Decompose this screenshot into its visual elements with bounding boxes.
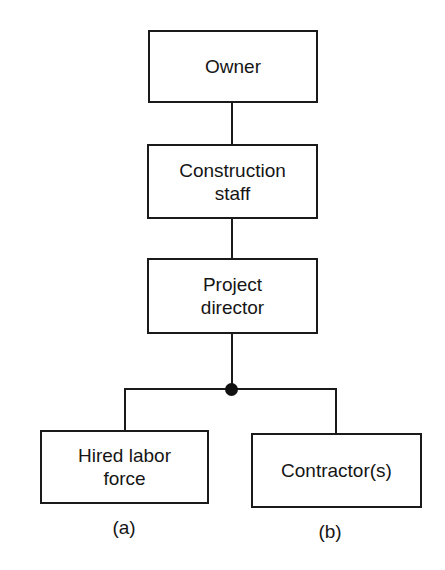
connector-owner-staff	[231, 102, 233, 144]
node-project-director: Project director	[147, 258, 318, 334]
node-construction-staff-label-line1: Construction	[179, 159, 286, 182]
connector-staff-director	[231, 218, 233, 258]
node-project-director-label-line1: Project	[201, 273, 264, 296]
node-contractors-label: Contractor(s)	[281, 459, 392, 482]
node-owner-label: Owner	[205, 55, 261, 78]
node-construction-staff-label-line2: staff	[179, 182, 286, 205]
node-hired-labor-label-line2: force	[78, 467, 171, 490]
caption-a: (a)	[104, 517, 144, 539]
caption-b: (b)	[310, 521, 350, 543]
connector-branch-left	[124, 388, 126, 431]
node-hired-labor-label-line1: Hired labor	[78, 444, 171, 467]
junction-dot	[225, 383, 238, 396]
connector-director-junction	[231, 333, 233, 389]
node-construction-staff: Construction staff	[147, 144, 318, 219]
connector-branch-right	[335, 389, 337, 434]
node-hired-labor-force: Hired labor force	[40, 430, 209, 504]
node-contractors: Contractor(s)	[251, 433, 422, 508]
node-project-director-label-line2: director	[201, 296, 264, 319]
node-owner: Owner	[148, 30, 318, 103]
